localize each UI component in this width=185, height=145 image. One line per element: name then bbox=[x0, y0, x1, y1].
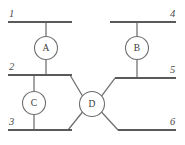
device-b-label: B bbox=[134, 43, 140, 53]
diagram-canvas: A B C D 1 2 3 4 5 6 bbox=[0, 0, 185, 145]
bus-label-5: 5 bbox=[170, 64, 175, 75]
branch-d-to-bus6 bbox=[102, 112, 119, 130]
branch-d-to-bus5 bbox=[102, 78, 116, 96]
devices: A B C D bbox=[23, 37, 149, 117]
single-line-diagram: A B C D 1 2 3 4 5 6 bbox=[0, 0, 185, 145]
bus-label-1: 1 bbox=[9, 8, 14, 19]
bus-label-2: 2 bbox=[9, 61, 15, 72]
device-c-label: C bbox=[31, 98, 37, 108]
device-d-label: D bbox=[89, 99, 96, 109]
branch-d-to-bus2 bbox=[70, 75, 83, 96]
bus-label-6: 6 bbox=[170, 116, 176, 127]
branch-d-to-bus3 bbox=[68, 112, 83, 130]
bus-label-3: 3 bbox=[8, 116, 14, 127]
bus-label-4: 4 bbox=[170, 8, 176, 19]
device-a-label: A bbox=[43, 43, 50, 53]
